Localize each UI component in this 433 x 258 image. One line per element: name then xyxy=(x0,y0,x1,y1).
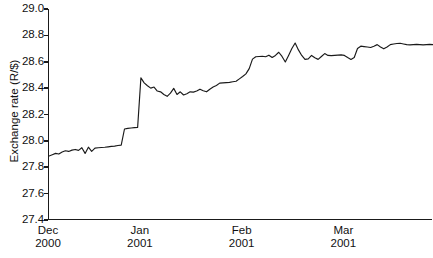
y-tick-label: 28.0 xyxy=(6,134,44,146)
x-tick-month: Jan xyxy=(100,224,180,237)
x-tick-year: 2000 xyxy=(8,237,88,250)
y-tick-label: 28.2 xyxy=(6,108,44,120)
x-tick-label: Feb2001 xyxy=(202,224,282,249)
x-tick-month: Dec xyxy=(8,224,88,237)
series-line xyxy=(49,43,433,156)
plot-area xyxy=(48,9,432,220)
y-tick-label: 28.8 xyxy=(6,28,44,40)
y-tick-label: 27.6 xyxy=(6,187,44,199)
x-tick-year: 2001 xyxy=(100,237,180,250)
y-tick-label: 27.8 xyxy=(6,160,44,172)
x-tick-year: 2001 xyxy=(202,237,282,250)
x-tick-month: Mar xyxy=(303,224,383,237)
y-tick-label: 28.6 xyxy=(6,55,44,67)
exchange-rate-series xyxy=(49,9,433,220)
x-tick-label: Jan2001 xyxy=(100,224,180,249)
x-tick-label: Dec2000 xyxy=(8,224,88,249)
y-tick-label: 29.0 xyxy=(6,2,44,14)
y-tick-label: 28.4 xyxy=(6,81,44,93)
exchange-rate-line-chart: Exchange rate (R/$) 29.028.828.628.428.2… xyxy=(0,0,433,258)
x-tick-label: Mar2001 xyxy=(303,224,383,249)
x-tick-year: 2001 xyxy=(303,237,383,250)
x-tick-month: Feb xyxy=(202,224,282,237)
